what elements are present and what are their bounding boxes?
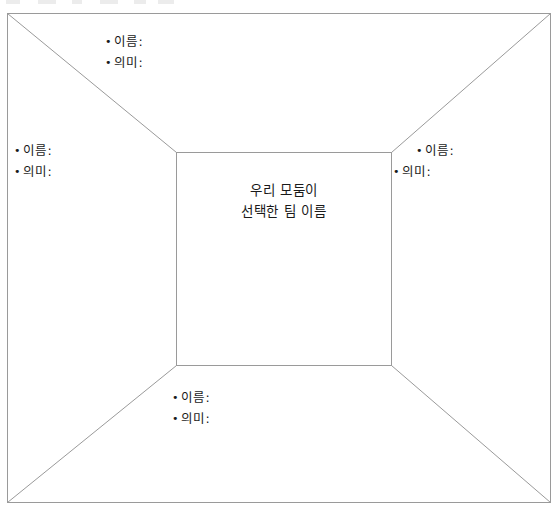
bullet-dot-icon: • [393,161,402,182]
bullet-dot-icon: • [172,387,181,408]
panel-bottom-meaning-label: 의미: [181,408,210,429]
panel-top-name-label: 이름: [114,31,143,52]
center-team-name-label: 우리 모둠이 선택한 팀 이름 [176,152,392,366]
panel-top-meaning-label: 의미: [114,52,143,73]
panel-bottom-name-label: 이름: [181,387,210,408]
bullet-dot-icon: • [105,52,114,73]
panel-left-name-row[interactable]: • 이름: [14,140,52,161]
bullet-dot-icon: • [105,31,114,52]
panel-top-name-row[interactable]: • 이름: [105,31,143,52]
panel-right-name-row[interactable]: • 이름: [416,140,454,161]
center-line-2: 선택한 팀 이름 [241,201,326,222]
panel-top-meaning-row[interactable]: • 의미: [105,52,143,73]
panel-bottom-meaning-row[interactable]: • 의미: [172,408,210,429]
bottom-left-diagonal [8,366,177,503]
panel-right-bullets: • 이름: • 의미: [416,140,454,182]
panel-left-bullets: • 이름: • 의미: [14,140,52,182]
panel-bottom-name-row[interactable]: • 이름: [172,387,210,408]
bullet-dot-icon: • [14,161,23,182]
panel-left-meaning-row[interactable]: • 의미: [14,161,52,182]
panel-right-meaning-label: 의미: [402,161,431,182]
center-line-1: 우리 모둠이 [250,180,318,201]
panel-bottom-bullets: • 이름: • 의미: [172,387,210,429]
panel-left-name-label: 이름: [23,140,52,161]
bullet-dot-icon: • [14,140,23,161]
bullet-dot-icon: • [172,408,181,429]
bottom-right-diagonal [392,366,551,503]
panel-top-bullets: • 이름: • 의미: [105,31,143,73]
panel-right-meaning-row[interactable]: • 의미: [393,161,454,182]
top-right-diagonal [392,14,551,153]
bullet-dot-icon: • [416,140,425,161]
worksheet-canvas: 우리 모둠이 선택한 팀 이름 • 이름: • 의미: • 이름: • 의미: … [0,0,559,514]
panel-left-meaning-label: 의미: [23,161,52,182]
panel-right-name-label: 이름: [425,140,454,161]
top-left-diagonal [8,14,177,153]
